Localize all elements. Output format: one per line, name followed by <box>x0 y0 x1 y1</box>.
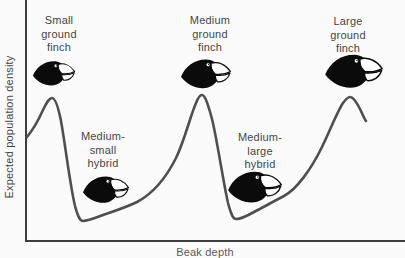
finch-head-icon <box>32 60 76 89</box>
large-ground-finch-head-icon <box>324 53 384 93</box>
label-line: Medium- <box>58 130 148 144</box>
label-small-ground-finch: Small ground finch <box>14 14 104 55</box>
small-ground-finch-head-icon <box>32 60 76 89</box>
label-line: ground <box>165 28 255 42</box>
y-axis-label: Expected population density <box>3 56 15 199</box>
finch-eye-pupil <box>108 180 109 181</box>
x-axis-label: Beak depth <box>176 246 234 258</box>
label-line: Medium- <box>215 131 305 145</box>
finch-upper-beak <box>360 58 382 71</box>
label-line: finch <box>165 41 255 55</box>
label-medium-small-hybrid: Medium- small hybrid <box>58 130 148 171</box>
label-line: large <box>215 145 305 159</box>
finch-upper-beak <box>58 64 74 74</box>
finch-upper-beak <box>111 179 129 190</box>
label-line: ground <box>14 28 104 42</box>
label-line: Medium <box>165 14 255 28</box>
finch-upper-beak <box>260 175 281 188</box>
finch-head-icon <box>324 53 384 93</box>
finch-eye-pupil <box>257 176 258 177</box>
finch-head-icon <box>82 175 130 207</box>
finch-eye-pupil <box>208 64 209 65</box>
label-line: finch <box>14 41 104 55</box>
medium-small-hybrid-head-icon <box>82 175 130 207</box>
finch-eye-pupil <box>56 65 57 66</box>
finch-head-icon <box>180 58 232 92</box>
medium-large-hybrid-head-icon <box>227 170 283 207</box>
finch-eye-pupil <box>356 60 357 61</box>
label-medium-ground-finch: Medium ground finch <box>165 14 255 55</box>
label-line: small <box>58 144 148 158</box>
label-line: hybrid <box>58 157 148 171</box>
finch-head-icon <box>227 170 283 207</box>
label-large-ground-finch: Large ground finch <box>303 15 393 56</box>
label-line: Large <box>303 15 393 29</box>
label-medium-large-hybrid: Medium- large hybrid <box>215 131 305 172</box>
finch-upper-beak <box>211 63 230 75</box>
medium-ground-finch-head-icon <box>180 58 232 92</box>
label-line: Small <box>14 14 104 28</box>
label-line: ground <box>303 29 393 43</box>
